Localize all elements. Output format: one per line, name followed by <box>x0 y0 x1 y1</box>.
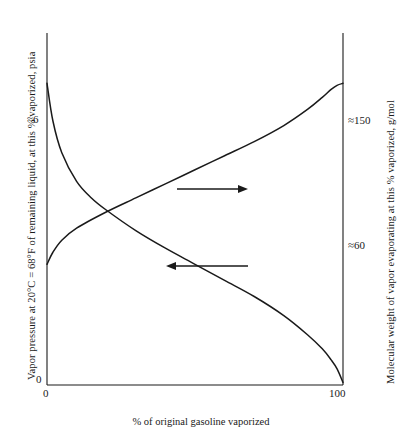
right-axis-title: Molecular weight of vapor evaporating at… <box>385 100 396 384</box>
left-axis-tick-6: ≈6 <box>27 113 39 125</box>
left-axis-tick-0: 0 <box>36 373 42 385</box>
molecular-weight-curve <box>47 83 343 264</box>
vapor-pressure-curve <box>47 83 343 382</box>
right-axis-tick-60: ≈60 <box>348 239 365 251</box>
plot-canvas <box>0 0 402 448</box>
arrow-to-right-axis <box>177 185 248 193</box>
chart-figure: Vapor pressure at 20°C = 68°F of remaini… <box>0 0 402 448</box>
left-axis-title: Vapor pressure at 20°C = 68°F of remaini… <box>26 52 37 380</box>
right-axis-tick-150: ≈150 <box>348 114 371 126</box>
x-axis-title: % of original gasoline vaporized <box>0 416 402 427</box>
x-axis-tick-100: 100 <box>329 387 346 399</box>
x-axis-tick-0: 0 <box>43 387 49 399</box>
arrow-to-left-axis <box>166 262 248 270</box>
